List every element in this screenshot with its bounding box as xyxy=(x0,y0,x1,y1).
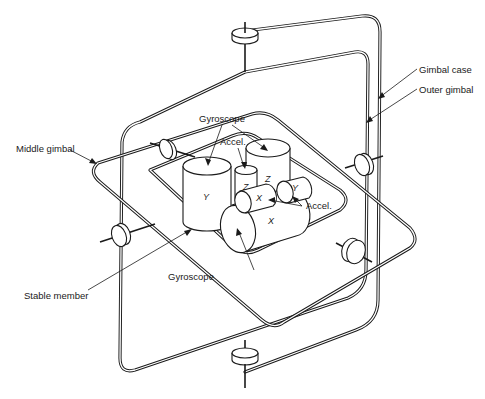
gyro-z-axis-label: Z xyxy=(264,174,271,184)
right-upper-pivot xyxy=(345,151,383,177)
bottom-pivot xyxy=(232,340,258,388)
accel-x-axis-label: X xyxy=(255,193,263,203)
label-gyroscope-bottom: Gyroscope xyxy=(168,271,214,282)
label-gimbal-case: Gimbal case xyxy=(419,64,472,75)
gyro-y-axis-label: Y xyxy=(203,192,210,202)
left-upper-pivot xyxy=(150,138,195,162)
label-accel-right: Accel. xyxy=(306,200,332,211)
left-lower-pivot xyxy=(100,221,155,248)
gimbal-platform-diagram: Z Y Z X X Y xyxy=(0,0,485,399)
label-accel-top: Accel. xyxy=(220,136,246,147)
label-gyroscope-top: Gyroscope xyxy=(199,113,245,124)
label-stable-member: Stable member xyxy=(24,290,88,301)
top-pivot xyxy=(232,22,258,72)
gyro-x-axis-label: X xyxy=(267,216,275,226)
accel-y-axis-label: Y xyxy=(292,183,299,193)
label-outer-gimbal: Outer gimbal xyxy=(419,84,473,95)
label-middle-gimbal: Middle gimbal xyxy=(16,143,75,154)
